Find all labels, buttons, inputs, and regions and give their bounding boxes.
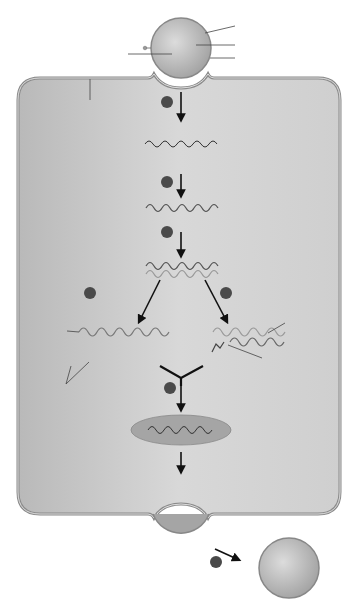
viral-reproductive-cycle-diagram [0, 0, 358, 610]
virus-entering [143, 18, 211, 78]
step-5-badge [220, 287, 232, 299]
step-7-badge [210, 556, 222, 568]
diagram-graphics [0, 0, 358, 610]
budding-virus [153, 514, 209, 533]
step-1-badge [161, 96, 173, 108]
step-2-badge [161, 176, 173, 188]
host-cell [18, 74, 340, 518]
step-6-badge [164, 382, 176, 394]
step-3-badge [161, 226, 173, 238]
virus-released [259, 538, 319, 598]
step-4-badge [84, 287, 96, 299]
assembled-capsid [131, 415, 231, 445]
